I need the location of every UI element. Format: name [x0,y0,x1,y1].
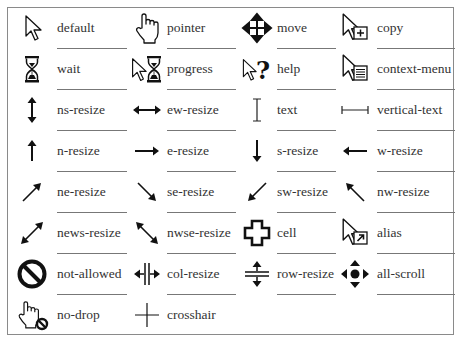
nwse-arrow-icon [130,216,164,250]
cursor-label-all-scroll: all-scroll [377,254,425,294]
arrow-menu-icon [338,52,372,86]
arrow-up-icon [15,134,49,168]
row-divider [277,294,336,295]
hourglass-icon [15,52,49,86]
ew-arrow-icon [130,93,164,127]
cursor-label-alias: alias [377,213,402,253]
cursor-label-move: move [277,8,307,48]
arrow-hourglass-icon [130,52,164,86]
horizontal-i-beam-icon [338,93,372,127]
thick-cross-icon [240,216,274,250]
all-scroll-icon [338,257,372,291]
cursor-label-text: text [277,90,297,130]
hand-pointer-icon [130,11,164,45]
cursor-label-n-resize: n-resize [57,131,100,171]
cursor-label-wait: wait [57,49,80,89]
arrow-sw-icon [240,175,274,209]
cursor-label-pointer: pointer [167,8,205,48]
arrow-left-icon [338,134,372,168]
no-entry-icon [15,257,49,291]
svg-text:?: ? [256,56,270,85]
cursor-label-nwse-resize: nwse-resize [167,213,231,253]
arrow-shortcut-icon [338,216,372,250]
cursor-label-default: default [57,8,94,48]
arrow-right-icon [130,134,164,168]
crosshair-icon [130,298,164,332]
cursor-label-row-resize: row-resize [277,254,334,294]
arrow-ne-icon [15,175,49,209]
arrow-pointer-icon [15,11,49,45]
arrow-down-icon [240,134,274,168]
arrow-question-icon: ? [240,52,274,86]
cursor-label-progress: progress [167,49,213,89]
cursor-label-e-resize: e-resize [167,131,209,171]
cursor-label-ew-resize: ew-resize [167,90,219,130]
cursor-label-not-allowed: not-allowed [57,254,121,294]
cursor-label-nw-resize: nw-resize [377,172,429,212]
cursor-label-ne-resize: ne-resize [57,172,106,212]
cursor-label-se-resize: se-resize [167,172,214,212]
col-resize-icon [130,257,164,291]
cursor-label-ns-resize: ns-resize [57,90,105,130]
move-arrows-icon [240,11,274,45]
cursor-label-s-resize: s-resize [277,131,318,171]
cursor-label-no-drop: no-drop [57,295,100,335]
ns-arrow-icon [15,93,49,127]
arrow-nw-icon [338,175,372,209]
cursor-label-cell: cell [277,213,297,253]
cursor-label-vertical-text: vertical-text [377,90,442,130]
arrow-se-icon [130,175,164,209]
cursor-label-col-resize: col-resize [167,254,219,294]
nesw-arrow-icon [15,216,49,250]
cursor-label-sw-resize: sw-resize [277,172,328,212]
row-divider [377,294,455,295]
cursor-label-context-menu: context-menu [377,49,451,89]
cursor-label-crosshair: crosshair [167,295,216,335]
hand-no-drop-icon [15,298,49,332]
cursor-label-help: help [277,49,300,89]
cursor-label-w-resize: w-resize [377,131,423,171]
cursor-label-copy: copy [377,8,403,48]
i-beam-icon [240,93,274,127]
cursor-label-news-resize: news-resize [57,213,121,253]
row-resize-icon [240,257,274,291]
arrow-copy-icon [338,11,372,45]
